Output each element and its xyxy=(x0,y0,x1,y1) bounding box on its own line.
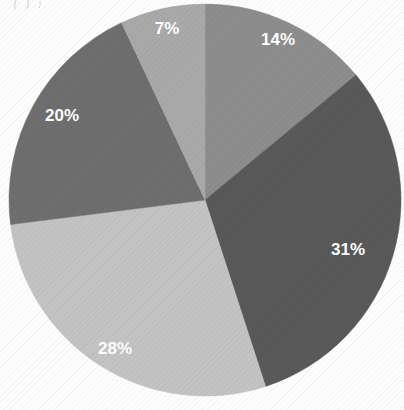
pie-slice-label: 31% xyxy=(331,240,365,259)
pie-slice-label: 28% xyxy=(98,339,132,358)
pie-slice-label: 20% xyxy=(45,106,79,125)
pie-chart: 14%31%28%20%7% xyxy=(0,0,404,410)
pie-slices-group xyxy=(9,4,401,396)
pie-chart-figure: 14%31%28%20%7% xyxy=(0,0,404,410)
pie-slice-label: 14% xyxy=(261,30,295,49)
pie-slice-label: 7% xyxy=(155,19,180,38)
